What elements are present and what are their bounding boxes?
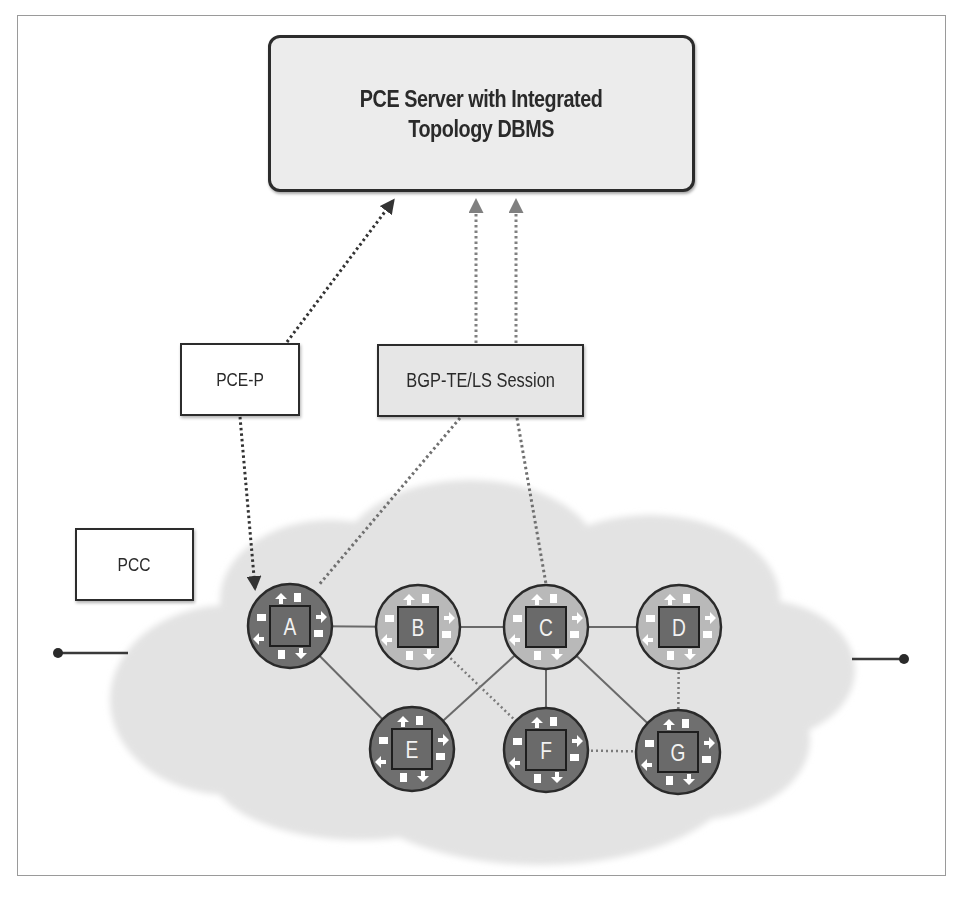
router-label: A (284, 613, 297, 641)
bgp-session-label: BGP-TE/LS Session (406, 369, 555, 392)
network-cloud (110, 480, 855, 865)
pcep-to-server (287, 201, 393, 342)
router-node-b: B (376, 585, 460, 669)
left-endpoint (53, 648, 128, 658)
router-label: F (540, 737, 552, 765)
pce-p-label: PCE-P (216, 369, 264, 391)
router-label: C (539, 614, 553, 642)
router-node-c: C (504, 585, 588, 669)
router-label: E (406, 736, 419, 764)
endpoint-dot-icon (899, 654, 909, 664)
pcc-label: PCC (118, 554, 151, 576)
router-label: B (412, 614, 425, 642)
router-label: G (671, 739, 686, 767)
router-label: D (672, 614, 686, 642)
pce-server-title-line1: PCE Server with Integrated (360, 84, 603, 114)
pce-server-title-line2: Topology DBMS (360, 114, 603, 144)
pcc-box: PCC (75, 528, 194, 601)
router-node-e: E (370, 707, 454, 791)
router-node-f: F (504, 708, 588, 792)
router-node-g: G (636, 710, 720, 794)
pce-server-box: PCE Server with Integrated Topology DBMS (268, 35, 695, 192)
pce-p-box: PCE-P (180, 343, 300, 416)
router-node-d: D (637, 585, 721, 669)
router-node-a: A (248, 584, 332, 668)
right-endpoint (852, 654, 909, 664)
bgp-session-box: BGP-TE/LS Session (377, 344, 584, 417)
endpoint-dot-icon (53, 648, 63, 658)
